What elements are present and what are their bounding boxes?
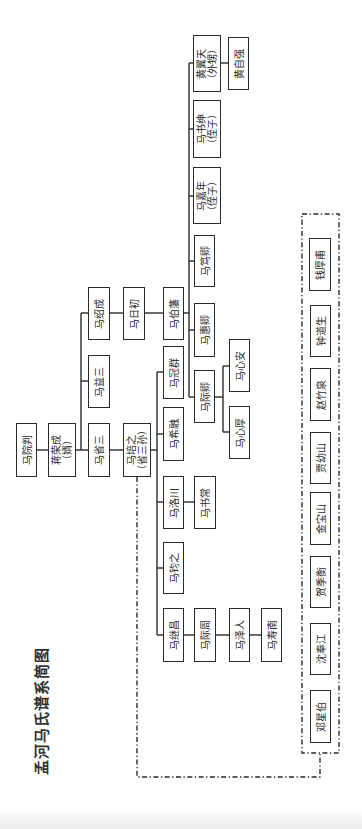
node-ma-zeren: 马泽人	[229, 608, 250, 662]
student-node: 沈奉江	[310, 623, 331, 675]
solid-connectors	[37, 63, 261, 635]
node-ma-shuchang: 马书常	[194, 476, 216, 529]
node-ma-jiqing: 马际卿	[194, 370, 215, 423]
node-ma-guanqun: 马冠群	[163, 346, 184, 399]
node-label: 赵竹泉	[315, 380, 326, 410]
node-label: 马省三	[94, 435, 105, 465]
node-ma-shushen: 马书绅 （侄子）	[193, 100, 221, 158]
node-label: 马际周	[200, 620, 211, 650]
node-label: 金宝山	[315, 504, 326, 534]
node-label: 马希融	[168, 419, 179, 449]
node-ma-jianian: 马嘉年 （侄子）	[193, 167, 221, 224]
node-label: 马益三	[94, 367, 105, 397]
student-node: 贾幼山	[310, 432, 331, 484]
scan-edge-shadow	[0, 811, 362, 829]
node-name: 马嘉年	[196, 176, 207, 216]
node-name: 马书绅	[196, 109, 207, 149]
node-label: 钟道生	[315, 316, 326, 346]
node-note: （婿）	[62, 435, 73, 465]
genealogy-diagram: 孟河马氏谱系简图 马院判 蒋荣成 （婿） 马绍成 马益三 马省三 马日初 马伯藩…	[0, 0, 362, 829]
node-ma-shounan: 马寿南	[261, 608, 282, 662]
node-label: 钱厚甫	[315, 250, 326, 280]
node-ma-yisan: 马益三	[88, 355, 110, 408]
node-label: 马绍成	[94, 299, 105, 329]
student-node: 金宝山	[310, 492, 331, 545]
node-name: 黄翼天	[196, 44, 207, 84]
node-label: 马洛川	[168, 488, 179, 518]
node-label: 马书绅 （侄子）	[196, 109, 218, 149]
node-name: 马培之	[126, 425, 137, 475]
node-ma-jizhou: 马际周	[194, 608, 216, 662]
student-node: 贺季衡	[310, 556, 331, 608]
node-ma-jichang: 马继昌	[163, 608, 184, 662]
node-label: 马嘉年 （侄子）	[196, 176, 218, 216]
student-node: 钱厚甫	[309, 238, 331, 291]
node-label: 马心厚	[234, 418, 245, 448]
node-label: 马笃卿	[199, 246, 210, 276]
node-ma-xinhou: 马心厚	[229, 406, 250, 459]
node-huang-ziqiang: 黄自强	[228, 37, 249, 90]
diagram-title: 孟河马氏谱系简图	[30, 647, 51, 775]
node-ma-xirong: 马希融	[163, 407, 184, 461]
node-ma-shaocheng: 马绍成	[88, 287, 110, 340]
node-label: 马泽人	[234, 620, 245, 650]
node-label: 贾幼山	[315, 443, 326, 473]
node-label: 黄自强	[233, 49, 244, 79]
node-note: （省三孙）	[137, 425, 148, 475]
node-label: 马钧之	[168, 553, 179, 583]
node-note: （侄子）	[207, 109, 218, 149]
node-label: 马伯藩	[168, 299, 179, 329]
node-label: 马院判	[21, 435, 32, 465]
node-note: （外甥）	[207, 44, 218, 84]
node-ma-luochuan: 马洛川	[163, 476, 184, 529]
node-ma-richu: 马日初	[123, 287, 145, 340]
student-node: 邓星伯	[310, 690, 331, 743]
node-label: 蒋荣成 （婿）	[51, 435, 73, 465]
node-huang-yitian: 黄翼天 （外甥）	[193, 35, 221, 92]
node-label: 沈奉江	[315, 634, 326, 664]
node-label: 邓星伯	[315, 702, 326, 732]
node-label: 马寿南	[266, 620, 277, 650]
node-ma-shengsan: 马省三	[88, 423, 110, 477]
node-label: 马书常	[200, 488, 211, 518]
node-label: 马日初	[129, 299, 140, 329]
node-ma-junzhi: 马钧之	[163, 542, 184, 594]
node-jiang-rongcheng: 蒋荣成 （婿）	[48, 423, 76, 477]
node-label: 马培之 （省三孙）	[126, 425, 148, 475]
node-label: 马心安	[234, 351, 245, 381]
node-ma-duqing: 马笃卿	[194, 235, 215, 287]
node-label: 马继昌	[168, 620, 179, 650]
node-ma-bofan: 马伯藩	[163, 287, 184, 340]
node-label: 马惠卿	[199, 315, 210, 345]
node-ma-xinan: 马心安	[229, 339, 250, 392]
node-label: 贺季衡	[315, 567, 326, 597]
node-label: 马际卿	[199, 382, 210, 412]
node-name: 蒋荣成	[51, 435, 62, 465]
student-node: 钟道生	[310, 305, 331, 357]
node-label: 黄翼天 （外甥）	[196, 44, 218, 84]
node-ma-yuanpan: 马院判	[16, 423, 37, 477]
node-label: 马冠群	[168, 358, 179, 388]
student-node: 赵竹泉	[310, 368, 331, 421]
node-ma-peizhi: 马培之 （省三孙）	[123, 423, 151, 477]
node-note: （侄子）	[207, 176, 218, 216]
node-ma-huiqing: 马惠卿	[194, 303, 215, 357]
